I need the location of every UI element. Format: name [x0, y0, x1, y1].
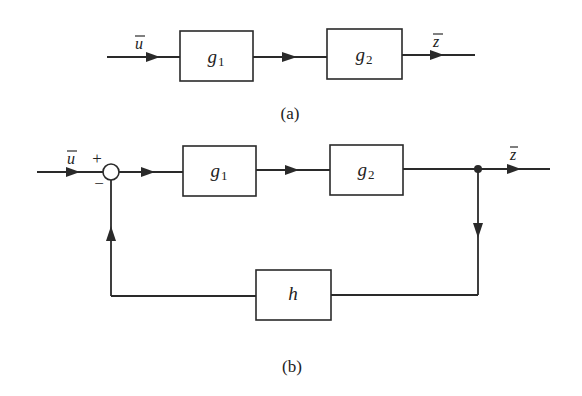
caption-a: (a) — [281, 104, 300, 123]
diagram-b: u + − g1 g2 z h — [37, 145, 550, 376]
input-arrow-a — [146, 52, 160, 62]
input-label-b: u — [67, 150, 75, 167]
summing-junction — [103, 164, 119, 180]
diagram-a: u g1 g2 z (a) — [107, 29, 475, 123]
caption-b: (b) — [282, 357, 302, 376]
feedback-down-arrow — [473, 223, 483, 238]
input-label-a: u — [135, 35, 143, 52]
output-arrow-b — [507, 164, 521, 174]
input-arrow-b — [66, 167, 80, 177]
plus-sign: + — [92, 149, 102, 168]
connector-g1-g2-b-arrow — [285, 165, 299, 175]
output-arrow-a — [430, 50, 444, 60]
feedback-up-arrow — [106, 226, 116, 241]
block-h-label: h — [288, 283, 298, 304]
output-label-a: z — [432, 33, 440, 50]
connector-sum-g1-arrow — [141, 167, 155, 177]
minus-sign: − — [94, 174, 104, 193]
block-diagram-canvas: u g1 g2 z (a) u + − — [0, 0, 582, 396]
output-label-b: z — [509, 146, 517, 163]
connector-arrow-a — [282, 52, 297, 62]
